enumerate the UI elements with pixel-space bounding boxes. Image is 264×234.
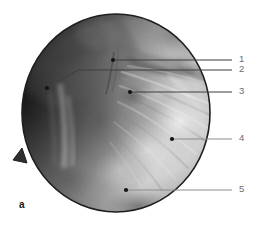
leader-dot-3 bbox=[128, 90, 132, 94]
leader-dot-4 bbox=[170, 137, 174, 141]
annotation-label-2: 2 bbox=[239, 64, 244, 74]
leader-dot-1 bbox=[111, 58, 115, 62]
leader-dot-5 bbox=[124, 188, 128, 192]
scope-edge-notch bbox=[13, 148, 27, 163]
annotation-label-4: 4 bbox=[239, 133, 244, 143]
scope-field-contents bbox=[0, 0, 264, 234]
annotation-label-3: 3 bbox=[239, 86, 244, 96]
endoscopic-image bbox=[0, 0, 264, 234]
leader-dot-2 bbox=[45, 86, 49, 90]
annotation-label-5: 5 bbox=[239, 184, 244, 194]
panel-letter: a bbox=[19, 199, 25, 210]
figure-panel: 1 2 3 4 5 a bbox=[0, 0, 264, 234]
